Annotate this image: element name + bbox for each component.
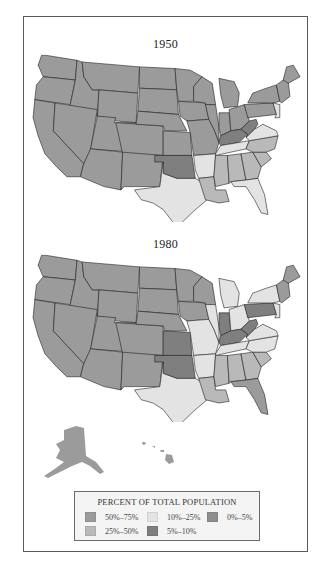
state-ks — [163, 131, 192, 156]
alaska-hawaii-inset — [24, 422, 309, 487]
state-alaska — [44, 426, 104, 478]
legend-item-0-5: 0%–5% — [207, 512, 252, 522]
state-nd — [140, 267, 177, 290]
state-sd — [138, 288, 179, 314]
legend-item-10-25: 10%–25% — [147, 512, 200, 522]
swatch-25-50 — [85, 526, 96, 536]
state-ar — [194, 154, 216, 179]
swatch-50-75 — [85, 512, 96, 522]
state-mi — [219, 78, 239, 108]
state-sd — [138, 88, 179, 114]
state-pa — [244, 103, 276, 118]
state-ia — [178, 101, 208, 121]
state-fl — [231, 378, 268, 414]
legend-item-25-50: 25%–50% — [85, 526, 138, 536]
state-wa — [38, 55, 77, 80]
legend: PERCENT OF TOTAL POPULATION 50%–75% 10%–… — [74, 491, 260, 541]
legend-label: 0%–5% — [227, 513, 252, 522]
state-wa — [38, 255, 77, 280]
state-mi — [219, 278, 239, 308]
state-fl — [231, 178, 268, 214]
state-ms — [214, 355, 229, 386]
state-ia — [178, 301, 208, 321]
state-ms — [214, 155, 229, 186]
state-pa — [244, 303, 276, 318]
state-me — [283, 265, 300, 283]
state-hawaii — [142, 442, 174, 464]
legend-title: PERCENT OF TOTAL POPULATION — [75, 497, 259, 507]
us-map-1950 — [24, 47, 309, 222]
legend-item-50-75: 50%–75% — [85, 512, 138, 522]
legend-label: 25%–50% — [105, 527, 138, 536]
state-nd — [140, 67, 177, 90]
legend-item-5-10: 5%–10% — [147, 526, 196, 536]
state-ks — [163, 331, 192, 356]
state-ny — [248, 85, 280, 103]
swatch-0-5 — [207, 512, 218, 522]
legend-label: 10%–25% — [167, 513, 200, 522]
us-map-1980 — [24, 247, 309, 422]
legend-label: 50%–75% — [105, 513, 138, 522]
state-ny — [248, 285, 280, 303]
legend-label: 5%–10% — [167, 527, 196, 536]
state-ar — [194, 354, 216, 379]
swatch-10-25 — [147, 512, 158, 522]
swatch-5-10 — [147, 526, 158, 536]
state-me — [283, 65, 300, 83]
figure-frame: 1950 1980 PERCENT OF TOTAL POPULATION 50… — [23, 16, 308, 552]
